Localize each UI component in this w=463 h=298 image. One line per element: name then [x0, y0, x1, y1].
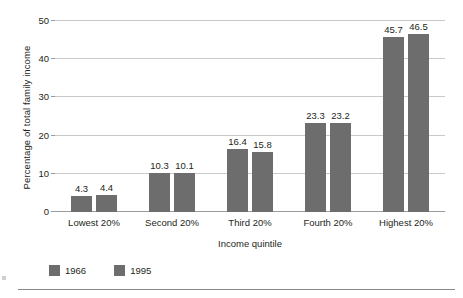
bar-group: 10.310.1Second 20%: [149, 21, 195, 212]
footer-divider: [18, 289, 455, 290]
bar-value-label: 23.2: [331, 110, 350, 121]
y-tick-label: 40: [38, 53, 49, 64]
y-tick-label: 30: [38, 91, 49, 102]
corner-mark: [2, 276, 6, 280]
x-tick-label: Lowest 20%: [68, 217, 120, 228]
bar-value-label: 45.7: [384, 24, 403, 35]
bar[interactable]: 4.3: [71, 196, 92, 212]
legend-item[interactable]: 1966: [49, 265, 86, 276]
bar-value-label: 46.5: [409, 21, 428, 32]
bar[interactable]: 4.4: [96, 195, 117, 212]
bar-group: 45.746.5Highest 20%: [383, 21, 429, 212]
plot-area: 01020304050 4.34.4Lowest 20%10.310.1Seco…: [55, 21, 445, 212]
bar[interactable]: 15.8: [252, 152, 273, 212]
x-tick-label: Second 20%: [145, 217, 199, 228]
bar-value-label: 23.3: [306, 110, 325, 121]
legend-swatch-icon: [49, 265, 60, 276]
bar[interactable]: 46.5: [408, 34, 429, 212]
bar-group: 16.415.8Third 20%: [227, 21, 273, 212]
bar[interactable]: 45.7: [383, 37, 404, 212]
legend-label: 1995: [130, 266, 151, 276]
bar[interactable]: 10.1: [174, 173, 195, 212]
chart-legend: 19661995: [49, 265, 151, 276]
bar-value-label: 10.3: [150, 160, 169, 171]
y-tick-label: 50: [38, 15, 49, 26]
y-tick-label: 10: [38, 167, 49, 178]
bar[interactable]: 16.4: [227, 149, 248, 212]
legend-swatch-icon: [114, 265, 125, 276]
bar-group: 4.34.4Lowest 20%: [71, 21, 117, 212]
y-tick-label: 0: [44, 206, 49, 217]
bar-value-label: 4.4: [100, 182, 113, 193]
bar-group: 23.323.2Fourth 20%: [305, 21, 351, 212]
bar[interactable]: 10.3: [149, 173, 170, 212]
bars-layer: 4.34.4Lowest 20%10.310.1Second 20%16.415…: [55, 21, 445, 212]
legend-label: 1966: [65, 266, 86, 276]
bar[interactable]: 23.2: [330, 123, 351, 212]
bar-value-label: 16.4: [228, 136, 247, 147]
bar-chart-figure: Percentage of total family income 010203…: [0, 0, 463, 298]
legend-item[interactable]: 1995: [114, 265, 151, 276]
bar[interactable]: 23.3: [305, 123, 326, 212]
bar-value-label: 4.3: [75, 183, 88, 194]
y-tick-label: 20: [38, 129, 49, 140]
x-tick-label: Third 20%: [228, 217, 271, 228]
bar-value-label: 10.1: [175, 160, 194, 171]
x-tick-label: Highest 20%: [379, 217, 433, 228]
x-axis-title: Income quintile: [55, 238, 445, 249]
x-tick-label: Fourth 20%: [303, 217, 352, 228]
bar-value-label: 15.8: [253, 139, 272, 150]
y-axis-title: Percentage of total family income: [21, 18, 32, 218]
